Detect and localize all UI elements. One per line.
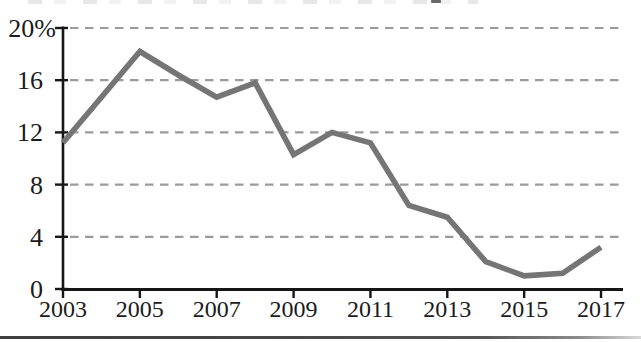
- line-chart: 20%1612840200320052007200920112013201520…: [0, 0, 641, 342]
- x-tick-label: 2011: [347, 296, 394, 322]
- x-tick-label: 2015: [500, 296, 548, 322]
- y-tick-label: 20%: [8, 14, 56, 43]
- y-tick-label: 4: [30, 223, 43, 252]
- scanned-chart-page: 20%1612840200320052007200920112013201520…: [0, 0, 641, 342]
- x-tick-label: 2009: [270, 296, 318, 322]
- y-tick-label: 12: [17, 118, 43, 147]
- x-tick-label: 2003: [39, 296, 87, 322]
- y-tick-label: 8: [30, 171, 43, 200]
- page-scan-edge: [0, 336, 641, 339]
- x-tick-label: 2007: [193, 296, 241, 322]
- y-tick-label: 16: [17, 66, 43, 95]
- x-tick-label: 2013: [423, 296, 471, 322]
- x-tick-label: 2005: [116, 296, 164, 322]
- data-series-line: [63, 52, 601, 276]
- x-tick-label: 2017: [577, 296, 625, 322]
